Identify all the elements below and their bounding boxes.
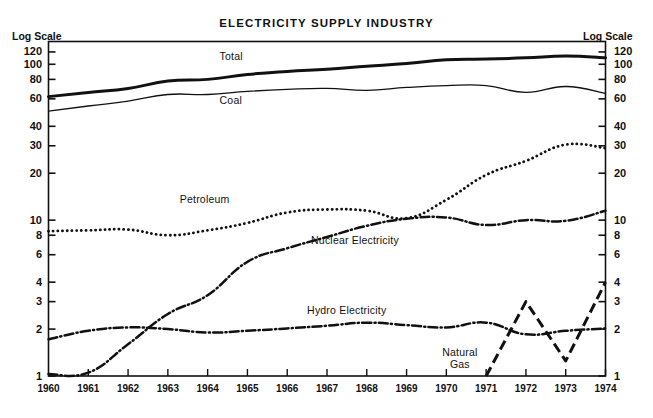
y-axis-tick-label-right: 8 — [614, 230, 620, 241]
x-axis-tick-label: 1963 — [148, 384, 188, 394]
x-axis-tick-label: 1967 — [307, 384, 347, 394]
series-label-hydro-electricity: Hydro Electricity — [307, 305, 386, 316]
chart-plot-area — [0, 0, 653, 418]
y-axis-tick-label-right: 4 — [614, 277, 620, 288]
y-axis-tick-label-right: 6 — [614, 249, 620, 260]
y-axis-tick-label-right: 80 — [614, 74, 626, 85]
x-axis-tick-label: 1973 — [546, 384, 586, 394]
series-label-total: Total — [220, 51, 243, 62]
x-axis-ticks — [88, 369, 605, 376]
y-axis-tick-label-right: 60 — [614, 93, 626, 104]
y-axis-tick-label-left: 120 — [6, 46, 42, 57]
x-axis-tick-label: 1966 — [267, 384, 307, 394]
y-axis-tick-label-left: 30 — [6, 140, 42, 151]
y-axis-tick-label-left: 10 — [6, 215, 42, 226]
x-axis-tick-label: 1962 — [108, 384, 148, 394]
y-axis-tick-label-left: 1 — [6, 371, 42, 382]
series-label-nuclear-electricity: Nuclear Electricity — [311, 235, 399, 246]
y-axis-tick-label-left: 40 — [6, 121, 42, 132]
y-axis-ticks-left — [49, 52, 56, 376]
x-axis-tick-label: 1964 — [188, 384, 228, 394]
x-axis-tick-label: 1961 — [68, 384, 108, 394]
x-axis-tick-label: 1965 — [227, 384, 267, 394]
series-line-total — [49, 56, 606, 97]
y-axis-tick-label-right: 10 — [614, 215, 626, 226]
y-axis-tick-label-right: 40 — [614, 121, 626, 132]
y-axis-tick-label-left: 20 — [6, 168, 42, 179]
x-axis-tick-label: 1974 — [586, 384, 626, 394]
y-axis-tick-label-left: 100 — [6, 59, 42, 70]
y-axis-tick-label-left: 6 — [6, 249, 42, 260]
y-axis-tick-label-right: 20 — [614, 168, 626, 179]
series-label-natural-gas: NaturalGas — [442, 346, 477, 370]
x-axis-tick-label: 1968 — [347, 384, 387, 394]
y-axis-tick-label-right: 1 — [614, 371, 620, 382]
x-axis-tick-label: 1971 — [466, 384, 506, 394]
series-label-coal: Coal — [220, 95, 242, 106]
y-axis-tick-label-left: 3 — [6, 296, 42, 307]
x-axis-tick-label: 1972 — [506, 384, 546, 394]
y-axis-tick-label-left: 2 — [6, 324, 42, 335]
y-axis-tick-label-left: 4 — [6, 277, 42, 288]
y-axis-tick-label-right: 3 — [614, 296, 620, 307]
y-axis-tick-label-right: 120 — [614, 46, 632, 57]
series-label-petroleum: Petroleum — [180, 194, 230, 205]
series-label-line1: Natural — [442, 346, 477, 358]
series-lines-layer — [49, 56, 606, 376]
y-axis-tick-label-right: 2 — [614, 324, 620, 335]
x-axis-tick-label: 1969 — [387, 384, 427, 394]
y-axis-tick-label-left: 60 — [6, 93, 42, 104]
chart-container: ELECTRICITY SUPPLY INDUSTRY Log Scale Lo… — [0, 0, 653, 418]
y-axis-tick-label-right: 100 — [614, 59, 632, 70]
x-axis-tick-label: 1960 — [29, 384, 69, 394]
y-axis-tick-label-left: 8 — [6, 230, 42, 241]
series-label-line2: Gas — [442, 358, 477, 370]
series-line-hydro-electricity — [49, 322, 606, 339]
y-axis-tick-label-right: 30 — [614, 140, 626, 151]
y-axis-tick-label-left: 80 — [6, 74, 42, 85]
x-axis-tick-label: 1970 — [426, 384, 466, 394]
